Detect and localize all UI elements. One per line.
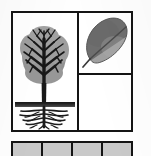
bottom-swatch-strip <box>11 141 133 156</box>
swatch-cell <box>103 143 131 156</box>
panel-divider-vertical <box>77 13 79 130</box>
panel-divider-horizontal <box>77 73 131 75</box>
leaf-cell <box>79 13 131 73</box>
leaf-petiole-shape <box>83 59 90 67</box>
bordered-figure-panel <box>11 11 133 132</box>
swatch-cell <box>73 143 103 156</box>
swatch-cell <box>43 143 73 156</box>
tree-cell <box>13 13 77 130</box>
empty-cell <box>79 75 131 130</box>
tree-roots-shape <box>20 107 68 129</box>
swatch-cell <box>13 143 43 156</box>
figure-root <box>0 0 151 156</box>
